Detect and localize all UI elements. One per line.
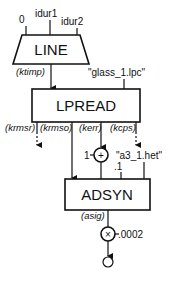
multiplier-const: .0002 [118,229,143,240]
asig-label: (asig) [81,210,105,221]
ktimp-label: (ktimp) [16,66,45,77]
krmsr-label: (krmsr) [5,122,35,133]
kcps-label: (kcps) [110,122,136,133]
line-node: LINE [13,35,89,64]
line-label: LINE [34,41,67,58]
adder-node: 1 + [84,148,108,179]
line-inputs: 0 idur1 idur2 [19,8,84,35]
lpread-node: LPREAD [32,89,140,122]
output-terminal-icon [103,257,113,267]
plus-icon: + [98,150,104,161]
line-input-0: 0 [19,14,25,25]
line-input-idur1: idur1 [35,8,58,19]
adsyn-file-arg: "a3_1.het" [116,150,162,161]
adder-const: 1 [84,150,90,161]
lpread-file-arg: "glass_1.lpc" [88,67,146,78]
adsyn-const-arg: .1 [114,161,123,172]
line-input-idur2: idur2 [61,16,84,27]
adsyn-label: ADSYN [81,186,133,203]
multiplier-node: × .0002 [101,227,143,256]
adsyn-node: ADSYN [65,179,150,210]
multiply-icon: × [105,229,111,240]
kerr-label: (kerr) [79,122,102,133]
lpread-label: LPREAD [56,97,116,114]
krmso-label: (krmso) [40,122,72,133]
